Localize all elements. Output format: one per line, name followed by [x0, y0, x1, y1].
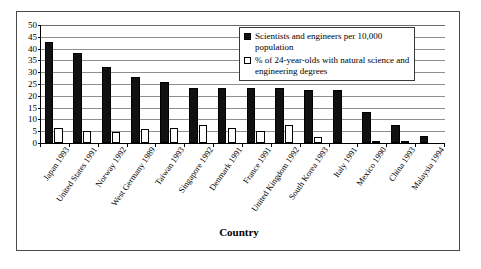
bar-degrees	[199, 125, 207, 143]
y-axis-tick-label: 20	[28, 91, 37, 100]
bar-group	[40, 25, 69, 143]
bar-scientists	[391, 125, 400, 143]
bar-group	[415, 25, 444, 143]
y-axis-tick-label: 35	[28, 56, 37, 65]
bar-scientists	[73, 53, 82, 143]
bar-degrees	[228, 128, 236, 143]
bar-degrees	[112, 132, 120, 143]
x-axis-tick-mark	[444, 143, 445, 147]
x-axis-category-label: Mexico 1990	[354, 145, 388, 188]
y-axis-tick-label: 30	[28, 68, 37, 77]
y-axis-tick-label: 40	[28, 44, 37, 53]
bar-degrees	[83, 131, 91, 143]
bar-scientists	[160, 82, 169, 143]
bar-scientists	[45, 42, 54, 143]
bar-group	[98, 25, 127, 143]
bar-group	[69, 25, 98, 143]
y-axis-tick-label: 0	[33, 139, 38, 148]
bar-degrees	[256, 131, 264, 143]
bar-scientists	[189, 88, 198, 143]
bar-scientists	[333, 90, 342, 143]
legend-item-scientists: Scientists and engineers per 10,000 popu…	[244, 31, 410, 52]
legend-swatch-filled-square-icon	[244, 33, 251, 40]
bar-group	[127, 25, 156, 143]
y-axis-tick-label: 45	[28, 32, 37, 41]
y-axis-tick-label: 5	[33, 127, 38, 136]
legend-label: Scientists and engineers per 10,000 popu…	[255, 31, 410, 52]
bar-degrees	[170, 128, 178, 143]
bar-degrees	[372, 141, 380, 143]
bar-degrees	[314, 137, 322, 143]
bar-scientists	[420, 136, 429, 143]
x-axis-category-label: Japan 1993	[40, 145, 70, 182]
y-axis-tick-label: 50	[28, 21, 37, 30]
legend-item-degrees: % of 24-year-olds with natural science a…	[244, 55, 410, 76]
chart-legend: Scientists and engineers per 10,000 popu…	[239, 27, 415, 81]
bar-scientists	[102, 67, 111, 143]
plot-wrapper: 05101520253035404550 Japan 1993United St…	[17, 12, 461, 252]
x-axis-category-label: Italy 1991	[331, 145, 359, 179]
y-axis-tick-label: 15	[28, 103, 37, 112]
bar-degrees	[141, 129, 149, 143]
bar-degrees	[54, 128, 62, 143]
bar-scientists	[131, 77, 140, 143]
bar-scientists	[247, 88, 256, 143]
x-axis-category-label: China 1993	[386, 145, 417, 183]
bar-group	[155, 25, 184, 143]
bar-scientists	[275, 88, 284, 143]
x-axis-title: Country	[17, 226, 461, 238]
chart-frame: 05101520253035404550 Japan 1993United St…	[16, 11, 460, 251]
x-axis-category-labels: Japan 1993United States 1991Norway 1992W…	[40, 145, 444, 225]
bar-scientists	[304, 90, 313, 143]
legend-label: % of 24-year-olds with natural science a…	[255, 55, 410, 76]
bar-group	[184, 25, 213, 143]
bar-scientists	[362, 112, 371, 143]
legend-swatch-open-square-icon	[244, 57, 251, 64]
bar-group	[213, 25, 242, 143]
y-axis-tick-label: 10	[28, 115, 37, 124]
bar-scientists	[218, 88, 227, 143]
bar-degrees	[285, 125, 293, 143]
y-axis-tick-label: 25	[28, 80, 37, 89]
bar-degrees	[401, 141, 409, 143]
